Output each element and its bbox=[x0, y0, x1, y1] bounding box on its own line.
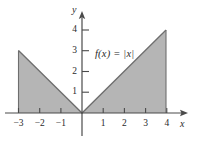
y-tick-label-2: 2 bbox=[63, 67, 77, 77]
function-label: f(x) = |x| bbox=[95, 49, 134, 60]
x-axis-label: x bbox=[180, 119, 184, 129]
x-tick-label-neg1: −1 bbox=[56, 119, 66, 129]
x-tick-label-neg2: −2 bbox=[35, 119, 45, 129]
y-axis-label: y bbox=[72, 5, 76, 15]
y-tick-label-4: 4 bbox=[63, 25, 77, 35]
y-tick-label-1: 1 bbox=[63, 87, 77, 97]
y-axis-arrowhead bbox=[79, 11, 85, 19]
y-tick-label-3: 3 bbox=[63, 46, 77, 56]
x-tick-label-3: 3 bbox=[143, 119, 148, 129]
y-axis-ticks bbox=[82, 30, 89, 92]
x-tick-label-neg3: −3 bbox=[13, 119, 23, 129]
graph-figure: y x f(x) = |x| −3 −2 −1 1 2 3 4 1 2 3 4 bbox=[0, 0, 199, 143]
x-tick-label-1: 1 bbox=[101, 119, 106, 129]
x-tick-label-4: 4 bbox=[164, 119, 169, 129]
x-tick-label-2: 2 bbox=[122, 119, 127, 129]
